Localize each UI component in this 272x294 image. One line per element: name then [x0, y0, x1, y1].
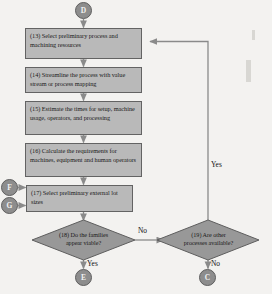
connector-d[interactable]: D: [75, 2, 92, 19]
edge-label-19-yes: Yes: [211, 160, 222, 169]
connector-c[interactable]: C: [199, 269, 216, 286]
step-15[interactable]: (15) Estimate the times for setup, machi…: [25, 101, 142, 135]
edge-label-18-yes: Yes: [87, 259, 98, 268]
connector-e[interactable]: E: [75, 269, 92, 286]
step-16[interactable]: (16) Calculate the requirements for mach…: [25, 143, 142, 177]
connector-e-label: E: [81, 273, 86, 282]
edge-label-18-no: No: [138, 226, 147, 235]
step-15-text: (15) Estimate the times for setup, machi…: [30, 105, 135, 121]
connector-f[interactable]: F: [1, 179, 18, 196]
connector-g[interactable]: G: [1, 197, 18, 214]
edge-label-19-no: No: [211, 259, 220, 268]
connector-d-label: D: [81, 6, 86, 15]
flowchart-canvas: D (13) Select preliminary process and ma…: [0, 0, 272, 294]
step-14-text: (14) Streamline the process with value s…: [30, 71, 125, 87]
step-13-text: (13) Select preliminary process and mach…: [30, 32, 118, 48]
decision-18-shape: [32, 220, 135, 260]
step-17-text: (17) Select preliminary external lot siz…: [31, 189, 118, 205]
step-17[interactable]: (17) Select preliminary external lot siz…: [26, 185, 133, 212]
step-16-text: (16) Calculate the requirements for mach…: [30, 147, 136, 163]
connector-g-label: G: [7, 201, 13, 210]
connector-c-label: C: [205, 273, 210, 282]
step-14[interactable]: (14) Streamline the process with value s…: [25, 67, 142, 93]
connector-f-label: F: [7, 183, 12, 192]
decision-19-shape: [157, 220, 259, 260]
step-13[interactable]: (13) Select preliminary process and mach…: [25, 28, 142, 59]
